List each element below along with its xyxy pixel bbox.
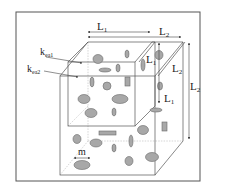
label-L2-right: L2 [190,80,201,94]
label-L2-diag: L2 [172,62,183,76]
cube-diagram: L1 L2 L1 L2 L2 L1 kea1 kea2 m [0,0,229,193]
inclusions [73,50,167,170]
labels: L1 L2 L1 L2 L2 L1 kea1 kea2 m [27,20,201,157]
label-k-ea2: kea2 [27,63,40,75]
label-L2-top: L2 [159,25,170,39]
label-m: m [78,146,86,157]
inner-cube [68,42,155,126]
label-k-ea1: kea1 [40,46,53,58]
label-L1-top: L1 [97,20,108,34]
label-L1-right-lower: L1 [164,92,175,106]
figure-frame [16,12,200,181]
